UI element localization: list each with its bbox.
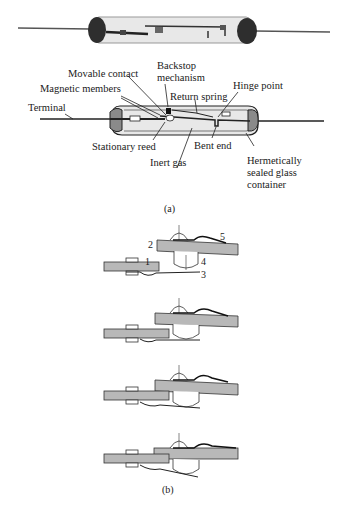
contact-sequence-diagram [0, 220, 345, 490]
stage-2 [104, 298, 238, 342]
label-glass-line3: container [247, 179, 286, 190]
label-movable-contact: Movable contact [68, 68, 138, 79]
reed-relay-photo [0, 0, 345, 60]
label-inert-gas: Inert gas [150, 157, 186, 168]
label-stationary-reed: Stationary reed [92, 141, 156, 152]
label-backstop-line2: mechanism [157, 72, 205, 83]
part-number-2: 2 [148, 240, 153, 250]
part-number-1: 1 [145, 257, 150, 267]
label-bent-end: Bent end [194, 140, 232, 151]
caption-a: (a) [164, 203, 175, 214]
stage-1 [104, 225, 238, 275]
label-return-spring: Return spring [170, 91, 227, 102]
label-hinge-point: Hinge point [233, 80, 283, 91]
part-number-3: 3 [201, 270, 206, 280]
label-glass-line2: sealed glass [247, 167, 297, 178]
stage-3 [104, 365, 238, 408]
label-magnetic-members: Magnetic members [40, 83, 121, 94]
label-backstop-line1: Backstop [157, 60, 196, 71]
label-terminal: Terminal [28, 102, 66, 113]
part-number-5: 5 [220, 232, 225, 242]
stage-4 [104, 433, 238, 477]
label-glass-line1: Hermetically [247, 155, 302, 166]
part-number-4: 4 [201, 257, 206, 267]
caption-b: (b) [162, 484, 174, 495]
